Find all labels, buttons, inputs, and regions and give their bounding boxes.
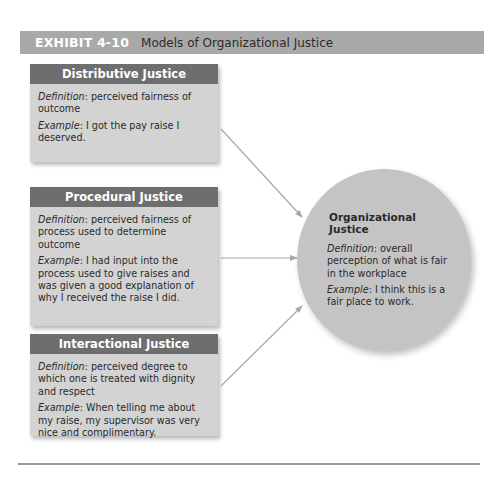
example: Example: When telling me about my raise,…: [38, 402, 210, 439]
box-body: Definition: perceived fairness of outcom…: [30, 84, 218, 155]
example-label: Example: [38, 255, 80, 266]
interactional-justice-box: Interactional Justice Definition: percei…: [30, 334, 218, 436]
definition-label: Definition: [38, 361, 85, 372]
arrow-interactional: [221, 306, 302, 386]
circle-title: Organizational Justice: [327, 211, 457, 236]
definition: Definition: perceived degree to which on…: [38, 361, 210, 398]
box-body: Definition: perceived degree to which on…: [30, 354, 218, 449]
organizational-justice-circle: Organizational Justice Definition: overa…: [297, 169, 471, 351]
example: Example: I got the pay raise I deserved.: [38, 120, 210, 145]
definition-label: Definition: [327, 243, 374, 254]
example-label: Example: [38, 120, 80, 131]
example: Example: I think this is a fair place to…: [327, 284, 457, 309]
example-label: Example: [327, 284, 369, 295]
definition: Definition: perceived fairness of outcom…: [38, 91, 210, 116]
definition-label: Definition: [38, 214, 85, 225]
example-label: Example: [38, 402, 80, 413]
bottom-divider: [18, 463, 480, 465]
definition: Definition: overall perception of what i…: [327, 243, 457, 280]
arrow-distributive: [221, 129, 302, 217]
definition-label: Definition: [38, 91, 85, 102]
example: Example: I had input into the process us…: [38, 255, 210, 305]
distributive-justice-box: Distributive Justice Definition: perceiv…: [30, 64, 218, 162]
circle-content: Organizational Justice Definition: overa…: [327, 211, 457, 313]
box-body: Definition: perceived fairness of proces…: [30, 207, 218, 315]
box-title: Distributive Justice: [30, 64, 218, 84]
box-title: Interactional Justice: [30, 334, 218, 354]
procedural-justice-box: Procedural Justice Definition: perceived…: [30, 187, 218, 326]
box-title: Procedural Justice: [30, 187, 218, 207]
definition: Definition: perceived fairness of proces…: [38, 214, 210, 251]
